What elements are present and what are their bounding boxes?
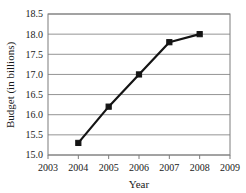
x-tick-label: 2009 xyxy=(220,162,240,173)
x-tick-label: 2007 xyxy=(159,162,179,173)
data-point-marker xyxy=(197,32,202,37)
budget-line-chart: 15.015.516.016.517.017.518.018.5 2003200… xyxy=(0,0,246,193)
x-tick-label: 2006 xyxy=(129,162,149,173)
y-axis-title: Budget (in billions) xyxy=(4,42,17,129)
x-tick-label: 2003 xyxy=(38,162,58,173)
y-tick-label: 17.5 xyxy=(26,49,44,60)
y-tick-label: 16.5 xyxy=(26,89,44,100)
y-tick-label: 18.0 xyxy=(26,29,44,40)
y-tick-label: 15.0 xyxy=(26,149,44,160)
y-tick-label: 16.0 xyxy=(26,109,44,120)
data-point-marker xyxy=(167,40,172,45)
x-tick-label: 2005 xyxy=(99,162,119,173)
x-tick-label: 2004 xyxy=(68,162,88,173)
y-tick-label: 18.5 xyxy=(26,8,44,19)
data-point-marker xyxy=(76,140,81,145)
x-axis-title: Year xyxy=(129,178,150,190)
y-tick-label: 17.0 xyxy=(26,69,44,80)
y-tick-label: 15.5 xyxy=(26,129,44,140)
data-point-marker xyxy=(106,104,111,109)
data-point-marker xyxy=(136,72,141,77)
x-tick-label: 2008 xyxy=(190,162,210,173)
chart-canvas: 15.015.516.016.517.017.518.018.5 2003200… xyxy=(0,0,246,193)
